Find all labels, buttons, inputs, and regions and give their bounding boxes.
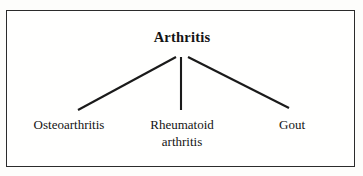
node-leaf-osteoarthritis: Osteoarthritis [9, 117, 129, 134]
node-leaf-rheumatoid-label-line1: Rheumatoid [150, 117, 214, 132]
node-leaf-gout: Gout [252, 117, 332, 134]
diagram-screenshot: Arthritis Osteoarthritis Rheumatoid arth… [0, 0, 363, 176]
node-root-arthritis: Arthritis [112, 28, 252, 47]
node-leaf-osteoarthritis-label: Osteoarthritis [34, 117, 105, 132]
node-leaf-gout-label: Gout [279, 117, 305, 132]
node-leaf-rheumatoid-arthritis: Rheumatoid arthritis [125, 117, 239, 150]
node-root-label: Arthritis [154, 29, 211, 45]
node-leaf-rheumatoid-label-line2: arthritis [162, 134, 202, 149]
